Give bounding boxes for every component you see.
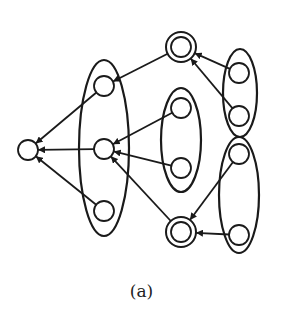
- edge-T-to-L1: [113, 54, 168, 82]
- node-B: [171, 222, 191, 242]
- node-L3: [94, 201, 114, 221]
- node-L1: [94, 76, 114, 96]
- edge-RU1-to-T: [195, 53, 230, 69]
- nodes: [18, 32, 249, 247]
- node-root: [18, 140, 38, 160]
- figure-caption: (a): [0, 281, 283, 301]
- node-M2: [171, 158, 191, 178]
- node-RL2: [229, 225, 249, 245]
- graph-diagram: [0, 0, 283, 327]
- edges: [36, 53, 233, 234]
- node-L2: [94, 139, 114, 159]
- edge-B-to-L2: [111, 156, 171, 221]
- node-RU1: [229, 63, 249, 83]
- node-RU2: [229, 106, 249, 126]
- node-T: [171, 37, 191, 57]
- edge-L3-to-root: [36, 156, 96, 204]
- node-RL1: [229, 144, 249, 164]
- edge-M1-to-L2: [113, 113, 172, 145]
- edge-L2-to-root: [38, 149, 94, 150]
- edge-L1-to-root: [36, 92, 97, 143]
- node-M1: [171, 98, 191, 118]
